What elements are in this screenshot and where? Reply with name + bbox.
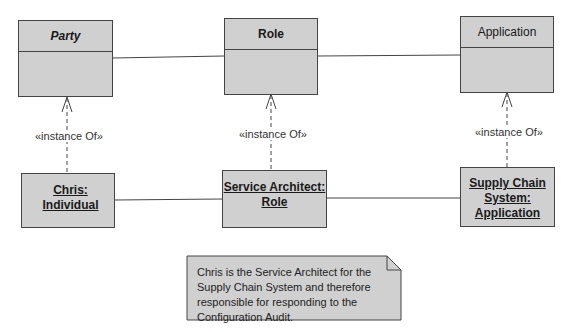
association-role-application (318, 55, 460, 56)
instance-name: Chris: Individual (27, 183, 114, 213)
class-name: Party (19, 21, 112, 52)
instance-name: System: (484, 191, 531, 206)
instance-name: Role (261, 195, 287, 210)
class-role[interactable]: Role (224, 18, 318, 95)
stereotype-label: «instance Of» (34, 130, 104, 142)
class-party[interactable]: Party (18, 20, 113, 97)
instance-service-architect[interactable]: Service Architect: Role (222, 170, 327, 228)
association-chris-servicearchitect (115, 199, 222, 200)
note[interactable]: Chris is the Service Architect for the S… (187, 256, 401, 320)
instance-supply-chain-system[interactable]: Supply Chain System: Application (460, 167, 555, 227)
stereotype-label: «instance Of» (474, 126, 544, 138)
instance-chris[interactable]: Chris: Individual (21, 173, 115, 228)
association-party-role (113, 56, 224, 58)
class-name: Role (225, 19, 317, 50)
instance-name: Application (475, 206, 540, 221)
class-application[interactable]: Application (460, 16, 554, 93)
instance-name: Service Architect: (224, 180, 326, 195)
class-name: Application (461, 17, 553, 48)
stereotype-label: «instance Of» (238, 128, 308, 140)
note-text: Chris is the Service Architect for the S… (197, 265, 397, 325)
uml-diagram: Party Role Application «instance Of» «in… (0, 0, 580, 333)
instance-name: Supply Chain (469, 176, 546, 191)
